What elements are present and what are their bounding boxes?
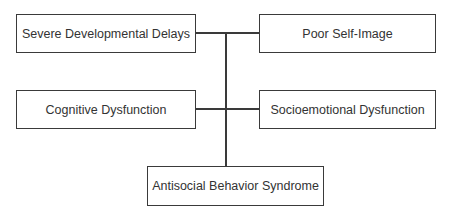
connector-socio: [226, 108, 259, 110]
node-label: Cognitive Dysfunction: [46, 103, 167, 117]
node-label: Severe Developmental Delays: [22, 27, 190, 41]
connector-severe: [195, 32, 226, 34]
connector-poor: [226, 32, 259, 34]
trunk-line: [225, 32, 227, 167]
node-label: Socioemotional Dysfunction: [270, 103, 424, 117]
node-label: Poor Self-Image: [302, 27, 392, 41]
node-poor-self-image: Poor Self-Image: [259, 14, 436, 53]
node-antisocial-behavior-syndrome: Antisocial Behavior Syndrome: [147, 166, 324, 206]
node-severe-developmental-delays: Severe Developmental Delays: [16, 14, 196, 53]
node-cognitive-dysfunction: Cognitive Dysfunction: [16, 90, 196, 129]
node-socioemotional-dysfunction: Socioemotional Dysfunction: [259, 90, 436, 129]
node-label: Antisocial Behavior Syndrome: [152, 179, 319, 193]
connector-cognitive: [195, 108, 226, 110]
